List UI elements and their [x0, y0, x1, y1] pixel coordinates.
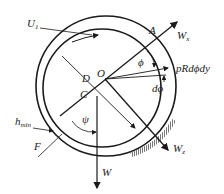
label-a: A: [148, 24, 156, 36]
label-d: D: [81, 72, 90, 84]
f-line: [38, 134, 62, 157]
diagram-canvas: U1 A Wx ϕ pRdϕdy dϕ D O C ψ hmin F W Wz: [0, 0, 224, 194]
label-dphi: dϕ: [152, 82, 164, 94]
label-f: F: [33, 140, 41, 152]
label-wx: Wx: [177, 29, 190, 43]
label-psi: ψ: [82, 113, 89, 125]
journal-circle: [43, 29, 161, 147]
label-u1: U1: [27, 17, 38, 31]
rotation-arrow: [72, 35, 98, 42]
label-force: pRdϕdy: [175, 62, 210, 74]
label-c: C: [80, 88, 88, 100]
label-wz: Wz: [173, 142, 185, 156]
label-hmin: hmin: [15, 115, 32, 129]
label-o: O: [97, 67, 105, 79]
label-w: W: [102, 166, 112, 178]
label-phi: ϕ: [138, 56, 144, 68]
journal-bearing-diagram: U1 A Wx ϕ pRdϕdy dϕ D O C ψ hmin F W Wz: [0, 0, 224, 194]
